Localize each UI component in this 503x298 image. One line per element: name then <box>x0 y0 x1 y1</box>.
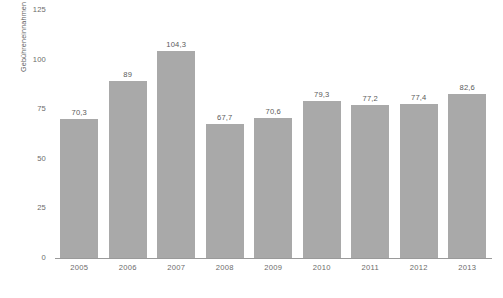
bar-value-label: 79,3 <box>298 90 347 99</box>
bar <box>60 119 98 258</box>
x-axis-line <box>55 258 492 259</box>
bar-slot: 77,4 <box>395 10 444 258</box>
y-tick-label: 75 <box>2 105 46 113</box>
bar-slot: 104,3 <box>152 10 201 258</box>
bar-value-label: 70,6 <box>249 107 298 116</box>
y-tick-label: 100 <box>2 56 46 64</box>
x-tick-label: 2007 <box>152 263 201 273</box>
y-tick-label: 0 <box>2 254 46 262</box>
bar-slot: 79,3 <box>298 10 347 258</box>
x-tick-label: 2010 <box>298 263 347 273</box>
x-tick-label: 2005 <box>55 263 104 273</box>
bar-slot: 77,2 <box>346 10 395 258</box>
bar-slot: 67,7 <box>201 10 250 258</box>
bar-slot: 82,6 <box>443 10 492 258</box>
bar-value-label: 67,7 <box>201 113 250 122</box>
bar <box>351 105 389 258</box>
bar <box>254 118 292 258</box>
y-axis-ticks: 125 100 75 50 25 0 <box>0 0 52 298</box>
bar <box>303 101 341 258</box>
bar-slot: 70,6 <box>249 10 298 258</box>
bar <box>448 94 486 258</box>
bar-series: 70,3 89 104,3 67,7 70,6 79,3 77,2 77,4 <box>55 10 492 258</box>
y-tick-label: 50 <box>2 155 46 163</box>
x-tick-label: 2009 <box>249 263 298 273</box>
x-tick-label: 2013 <box>443 263 492 273</box>
bar-chart: Gebühreneinnahmen in Mrd. US-Dollar 125 … <box>0 0 503 298</box>
x-axis-ticks: 2005 2006 2007 2008 2009 2010 2011 2012 … <box>55 263 492 277</box>
bar-value-label: 89 <box>104 70 153 79</box>
bar-value-label: 82,6 <box>443 83 492 92</box>
bar-value-label: 70,3 <box>55 108 104 117</box>
bar-slot: 89 <box>104 10 153 258</box>
bar-value-label: 77,2 <box>346 94 395 103</box>
bar-value-label: 77,4 <box>395 93 444 102</box>
x-tick-label: 2008 <box>201 263 250 273</box>
bar-value-label: 104,3 <box>152 40 201 49</box>
x-tick-label: 2006 <box>104 263 153 273</box>
bar <box>157 51 195 258</box>
y-tick-label: 25 <box>2 204 46 212</box>
y-tick-label: 125 <box>2 6 46 14</box>
x-tick-label: 2011 <box>346 263 395 273</box>
bar <box>206 124 244 258</box>
bar <box>109 81 147 258</box>
x-tick-label: 2012 <box>395 263 444 273</box>
bar-slot: 70,3 <box>55 10 104 258</box>
bar <box>400 104 438 258</box>
